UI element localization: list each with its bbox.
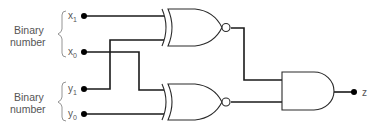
input-terminal-x0 xyxy=(81,49,87,55)
input-label-y1: y1 xyxy=(68,83,77,96)
group-y-label-line1: Binary xyxy=(14,91,45,103)
and-gate xyxy=(282,72,334,110)
xnor-gate-top xyxy=(162,9,230,46)
xnor-body xyxy=(168,9,222,46)
input-label-y0: y0 xyxy=(68,108,77,121)
brace-y xyxy=(58,82,66,121)
wire-x0 xyxy=(84,52,164,90)
xnor-body xyxy=(168,84,222,120)
group-label-x: Binary number xyxy=(10,24,46,48)
group-y-label-line2: number xyxy=(10,103,46,115)
inverter-bubble xyxy=(222,98,230,106)
wire-xnor-top-out xyxy=(231,28,282,80)
xnor-gate-bottom xyxy=(162,84,230,120)
brace-x xyxy=(58,11,66,57)
input-terminal-y0 xyxy=(81,111,87,117)
group-x-label-line1: Binary xyxy=(14,24,45,36)
inverter-bubble xyxy=(222,24,230,32)
input-terminal-y1 xyxy=(81,86,87,92)
group-x-label-line2: number xyxy=(10,36,46,48)
wire-y1 xyxy=(84,40,164,89)
input-label-x1: x1 xyxy=(68,10,77,23)
output-terminal-z xyxy=(351,89,357,95)
input-label-x0: x0 xyxy=(68,46,77,59)
group-label-y: Binary number xyxy=(10,91,46,115)
input-terminal-x1 xyxy=(81,13,87,19)
output-label-z: z xyxy=(362,87,367,98)
logic-diagram: Binary number Binary number x1 x0 y1 y0 … xyxy=(0,0,376,134)
